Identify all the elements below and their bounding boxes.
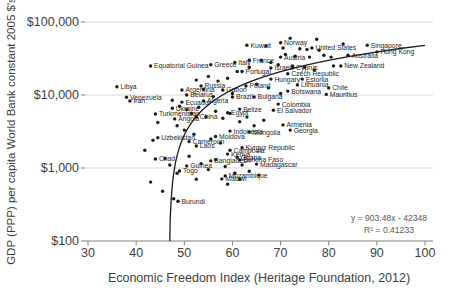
country-label: El Salvador [277, 107, 312, 114]
data-point [156, 121, 159, 124]
country-label: Malawi [225, 175, 247, 182]
data-point [226, 77, 229, 80]
data-point [151, 139, 154, 142]
country-label: Burundi [182, 198, 206, 205]
country-label: Georgia [294, 127, 318, 135]
country-label: Israel [274, 64, 291, 71]
data-point [115, 85, 118, 88]
data-point [156, 136, 159, 139]
data-point [240, 70, 243, 73]
trend-r-squared: R² = 0.41233 [364, 225, 414, 235]
country-label: Botswana [291, 88, 321, 95]
data-point [346, 54, 349, 57]
country-label: Kuwait [250, 42, 271, 49]
data-point [298, 47, 301, 50]
data-point [269, 77, 272, 80]
trend-equation: y = 903.48x - 42348 [351, 213, 427, 223]
y-tick-label: $10,000 [34, 88, 79, 102]
data-point [173, 117, 176, 120]
data-point [286, 89, 289, 92]
country-label: Greece [214, 61, 237, 68]
data-point [178, 169, 181, 172]
country-label: Russia [205, 82, 226, 89]
data-point [277, 102, 280, 105]
data-point [315, 38, 318, 41]
data-point [180, 100, 183, 103]
data-point [154, 112, 157, 115]
data-point [125, 96, 128, 99]
data-point [161, 190, 164, 193]
country-label: Mongolia [253, 129, 281, 137]
data-point [176, 200, 179, 203]
data-point [183, 128, 186, 131]
country-label: Poland [249, 82, 270, 89]
data-point [175, 124, 178, 127]
data-point [226, 183, 229, 186]
data-point [171, 99, 174, 102]
country-label: Australia [352, 52, 379, 59]
data-point [289, 128, 292, 131]
data-point [296, 83, 299, 86]
data-point [180, 88, 183, 91]
x-axis-title: Economic Freedom Index (Heritage Foundat… [108, 271, 410, 285]
data-point [209, 63, 212, 66]
data-point [149, 64, 152, 67]
data-point [220, 177, 223, 180]
country-label: Hong Kong [380, 48, 414, 56]
data-point [245, 44, 248, 47]
data-point [187, 155, 190, 158]
data-point [231, 95, 234, 98]
data-point [149, 180, 152, 183]
y-axis-title: GDP (PPP) per capita World Bank constant… [5, 0, 17, 265]
country-label: Portugal [246, 68, 272, 76]
x-tick-label: 80 [322, 246, 336, 260]
data-point [195, 178, 198, 181]
country-label: Iran [133, 97, 145, 104]
country-label: United States [315, 44, 356, 51]
data-point [332, 64, 335, 67]
data-point [305, 48, 308, 51]
chart-container: 30405060708090100$100$1,000$10,000$100,0… [0, 0, 453, 299]
country-label: Brazil [236, 93, 253, 100]
country-label: Norway [284, 39, 308, 47]
data-point [185, 93, 188, 96]
data-point [171, 107, 174, 110]
x-tick-label: 50 [177, 246, 191, 260]
data-point [262, 119, 265, 122]
data-point [291, 66, 294, 69]
data-point [308, 55, 311, 58]
x-tick-label: 60 [225, 246, 239, 260]
country-label: New Zealand [344, 62, 384, 69]
y-tick-label: $100 [51, 234, 79, 248]
data-point [281, 123, 284, 126]
data-point [224, 165, 227, 168]
data-point [281, 46, 284, 49]
data-point [236, 70, 239, 73]
x-tick-label: 90 [370, 246, 384, 260]
x-tick-label: 70 [274, 246, 288, 260]
data-point [310, 46, 313, 49]
country-label: Algeria [207, 97, 228, 105]
data-point [214, 110, 217, 113]
country-label: Laos [200, 142, 215, 149]
country-label: Angola [178, 115, 199, 123]
scatter-chart: 30405060708090100$100$1,000$10,000$100,0… [0, 0, 453, 299]
data-point [207, 75, 210, 78]
data-point [168, 163, 171, 166]
x-tick-label: 100 [415, 246, 436, 260]
data-point [143, 149, 146, 152]
data-point [279, 41, 282, 44]
y-tick-label: $100,000 [27, 15, 79, 29]
country-label: Equatorial Guinea [154, 62, 209, 70]
data-point [252, 95, 255, 98]
data-point [325, 93, 328, 96]
data-point [322, 54, 325, 57]
data-point [329, 55, 332, 58]
country-label: China [200, 113, 218, 120]
country-label: France [253, 57, 274, 64]
country-label: Italy [238, 59, 251, 67]
x-tick-label: 30 [81, 246, 95, 260]
data-point [366, 44, 369, 47]
x-tick-label: 40 [129, 246, 143, 260]
data-point [279, 55, 282, 58]
